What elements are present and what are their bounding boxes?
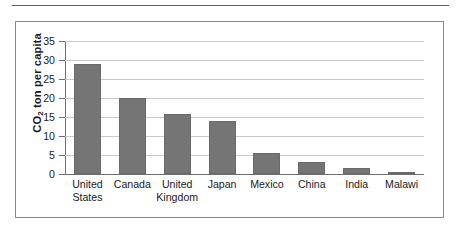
x-axis-category-label: Canada xyxy=(110,178,155,191)
gridline xyxy=(65,41,424,42)
bar xyxy=(119,98,146,174)
x-axis-category-label: United States xyxy=(65,178,110,203)
x-axis-category-label: Malawi xyxy=(379,178,424,191)
y-axis-tick-label: 5 xyxy=(16,150,55,161)
x-axis-baseline xyxy=(65,174,424,175)
bar xyxy=(388,172,415,174)
y-axis-tick-label: 25 xyxy=(16,74,55,85)
y-axis-tick-label: 30 xyxy=(16,55,55,66)
gridline xyxy=(65,79,424,80)
y-axis-tick-label: 10 xyxy=(16,131,55,142)
bar xyxy=(164,114,191,174)
figure-frame: CO2 ton per capita 05101520253035 United… xyxy=(15,21,444,218)
bar xyxy=(298,162,325,174)
bar xyxy=(253,153,280,174)
gridline xyxy=(65,60,424,61)
bar xyxy=(343,168,370,174)
page-top-rule xyxy=(12,5,449,6)
y-axis-tick-label: 15 xyxy=(16,112,55,123)
y-axis-tick-label: 35 xyxy=(16,36,55,47)
y-axis-tick-label: 0 xyxy=(16,169,55,180)
x-axis-category-label: United Kingdom xyxy=(155,178,200,203)
bar xyxy=(209,121,236,174)
plot-area xyxy=(65,41,424,174)
y-axis-tick-label: 20 xyxy=(16,93,55,104)
x-axis-category-label: China xyxy=(289,178,334,191)
bar xyxy=(74,64,101,174)
bar-chart: CO2 ton per capita 05101520253035 United… xyxy=(16,22,443,217)
x-axis-category-label: Japan xyxy=(200,178,245,191)
x-axis-category-label: Mexico xyxy=(245,178,290,191)
x-axis-category-label: India xyxy=(334,178,379,191)
